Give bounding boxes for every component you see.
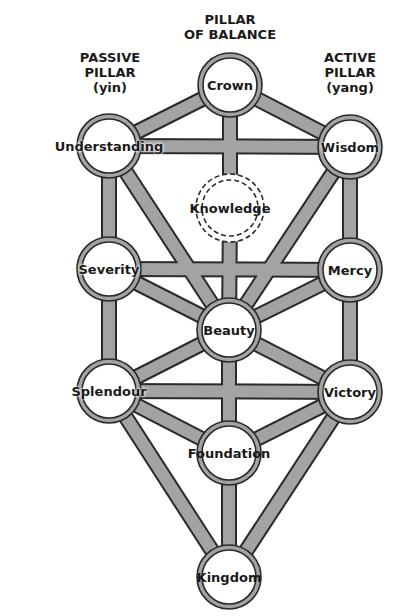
node-label-victory: Victory [324, 385, 376, 400]
node-label-understanding: Understanding [55, 139, 164, 154]
node-label-foundation: Foundation [188, 446, 271, 461]
node-label-splendour: Splendour [71, 384, 146, 399]
passive-pillar-header: PASSIVE PILLAR (yin) [70, 50, 150, 95]
node-label-kingdom: Kingdom [197, 570, 262, 585]
node-label-knowledge: Knowledge [190, 201, 271, 216]
node-label-severity: Severity [78, 262, 139, 277]
active-pillar-header: ACTIVE PILLAR (yang) [310, 50, 390, 95]
node-label-crown: Crown [207, 78, 253, 93]
node-label-beauty: Beauty [203, 323, 254, 338]
node-label-mercy: Mercy [328, 263, 372, 278]
node-label-wisdom: Wisdom [321, 140, 379, 155]
pillar-of-balance-header: PILLAR OF BALANCE [170, 12, 290, 42]
path-severity-mercy [109, 269, 350, 270]
